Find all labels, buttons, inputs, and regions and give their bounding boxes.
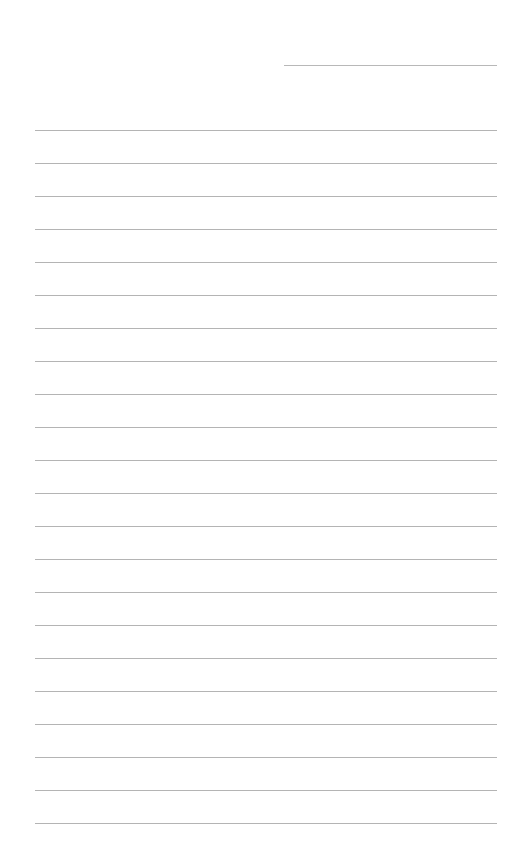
ruled-line — [35, 526, 497, 527]
ruled-line — [35, 163, 497, 164]
ruled-line — [35, 361, 497, 362]
ruled-line — [35, 625, 497, 626]
ruled-line — [35, 592, 497, 593]
ruled-line — [35, 757, 497, 758]
ruled-line — [35, 295, 497, 296]
ruled-line — [35, 427, 497, 428]
ruled-line — [35, 229, 497, 230]
ruled-line — [35, 559, 497, 560]
ruled-line — [35, 823, 497, 824]
ruled-line — [35, 493, 497, 494]
ruled-line — [35, 394, 497, 395]
ruled-line — [35, 691, 497, 692]
lined-paper-page — [0, 0, 521, 858]
ruled-line — [35, 790, 497, 791]
ruled-line — [35, 130, 497, 131]
ruled-line — [35, 460, 497, 461]
header-date-line — [284, 65, 497, 66]
ruled-line — [35, 196, 497, 197]
ruled-line — [35, 658, 497, 659]
ruled-line — [35, 262, 497, 263]
ruled-line — [35, 724, 497, 725]
ruled-line — [35, 328, 497, 329]
